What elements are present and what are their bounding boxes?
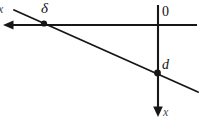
label-axis-left: x bbox=[0, 3, 3, 15]
label-origin-zero: 0 bbox=[162, 5, 169, 19]
d-intersection-point bbox=[154, 70, 161, 77]
horizontal-axis-line bbox=[3, 20, 197, 29]
label-axis-down: x bbox=[163, 106, 168, 118]
delta-intersection-point bbox=[41, 20, 47, 26]
diagram-canvas bbox=[0, 0, 205, 128]
figure-container: δ 0 d x x bbox=[0, 0, 205, 128]
label-delta: δ bbox=[41, 1, 48, 16]
label-depth-d: d bbox=[162, 58, 169, 72]
horizontal-axis-arrowhead-icon bbox=[3, 20, 14, 29]
vertical-axis-arrowhead-icon bbox=[153, 107, 163, 118]
